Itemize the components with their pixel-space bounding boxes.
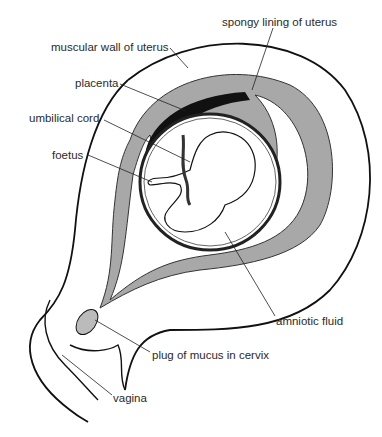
label-muscular-wall: muscular wall of uterus [51, 42, 169, 54]
label-umbilical-cord: umbilical cord [29, 113, 99, 125]
uterus-diagram: spongy lining of uterus muscular wall of… [0, 0, 382, 437]
label-vagina: vagina [113, 393, 147, 405]
diagram-artwork [0, 0, 382, 437]
label-spongy-lining: spongy lining of uterus [222, 17, 337, 29]
label-amniotic-fluid: amniotic fluid [276, 316, 343, 328]
label-foetus: foetus [52, 150, 83, 162]
label-plug-of-mucus: plug of mucus in cervix [152, 350, 269, 362]
label-placenta: placenta [75, 78, 118, 90]
